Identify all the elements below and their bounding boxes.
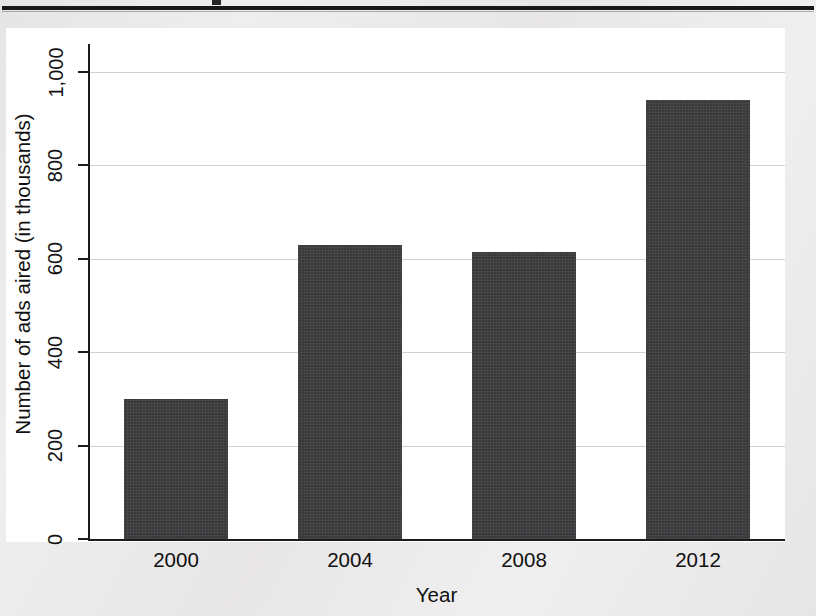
y-tick-label-200: 200 bbox=[40, 436, 72, 456]
y-tick-mark-1000 bbox=[78, 71, 89, 73]
y-tick-mark-400 bbox=[78, 351, 89, 353]
y-tick-label-text: 600 bbox=[45, 242, 68, 275]
bar-2000 bbox=[124, 399, 228, 539]
y-axis-title: Number of ads aired (in thousands) bbox=[11, 54, 35, 494]
y-tick-label-800: 800 bbox=[40, 155, 72, 175]
y-tick-label-600: 600 bbox=[40, 249, 72, 269]
title-remnant-glyph bbox=[212, 0, 221, 5]
top-horizontal-rule bbox=[2, 6, 814, 10]
y-tick-label-text: 400 bbox=[45, 336, 68, 369]
y-tick-mark-200 bbox=[78, 445, 89, 447]
y-tick-label-400: 400 bbox=[40, 342, 72, 362]
y-tick-label-text: 200 bbox=[45, 429, 68, 462]
bar-2012 bbox=[646, 100, 750, 539]
bar-chart: 02004006008001,000 Number of ads aired (… bbox=[0, 14, 790, 610]
bar-2004 bbox=[298, 245, 402, 539]
gridline-1000 bbox=[89, 72, 785, 73]
y-tick-label-text: 800 bbox=[45, 149, 68, 182]
y-tick-label-0: 0 bbox=[40, 529, 72, 549]
x-tick-label-2008: 2008 bbox=[464, 548, 584, 572]
y-tick-mark-800 bbox=[78, 164, 89, 166]
x-tick-label-2004: 2004 bbox=[290, 548, 410, 572]
x-axis-title: Year bbox=[88, 583, 785, 607]
y-tick-label-text: 0 bbox=[45, 533, 68, 544]
y-tick-label-text: 1,000 bbox=[45, 47, 68, 97]
y-axis-line bbox=[88, 44, 90, 540]
y-tick-label-1000: 1,000 bbox=[40, 62, 72, 82]
x-tick-label-2012: 2012 bbox=[638, 548, 758, 572]
top-horizontal-rule-shadow bbox=[2, 11, 814, 12]
x-axis-line bbox=[88, 539, 785, 541]
x-tick-label-2000: 2000 bbox=[116, 548, 236, 572]
y-tick-mark-600 bbox=[78, 258, 89, 260]
bar-2008 bbox=[472, 252, 576, 539]
